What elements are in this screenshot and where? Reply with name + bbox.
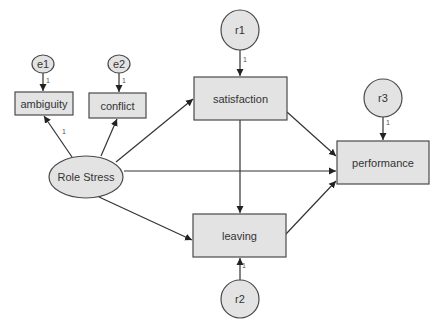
weight-r1-satisfaction: 1 bbox=[243, 56, 247, 63]
edge-satisfaction-performance bbox=[287, 112, 336, 156]
node-r2[interactable]: r2 bbox=[221, 280, 259, 318]
node-label: r1 bbox=[235, 24, 245, 36]
node-label: ambiguity bbox=[20, 98, 68, 110]
node-label: Role Stress bbox=[58, 171, 115, 183]
node-label: performance bbox=[352, 157, 414, 169]
node-label: r2 bbox=[235, 293, 245, 305]
edge-rolestress-leaving bbox=[99, 197, 192, 240]
edge-rolestress-conflict bbox=[101, 119, 117, 156]
weight-r2-leaving: 1 bbox=[242, 262, 246, 269]
node-conflict[interactable]: conflict bbox=[89, 93, 146, 118]
weight-rolestress-ambiguity: 1 bbox=[62, 128, 66, 135]
node-leaving[interactable]: leaving bbox=[193, 214, 286, 257]
node-r1[interactable]: r1 bbox=[221, 10, 259, 50]
node-satisfaction[interactable]: satisfaction bbox=[194, 77, 287, 120]
node-e2[interactable]: e2 bbox=[108, 55, 130, 73]
node-label: leaving bbox=[222, 230, 257, 242]
node-label: e1 bbox=[37, 58, 49, 70]
edge-leaving-performance bbox=[286, 181, 336, 234]
node-e1[interactable]: e1 bbox=[32, 55, 54, 73]
node-r3[interactable]: r3 bbox=[364, 79, 402, 117]
edge-rolestress-ambiguity bbox=[44, 116, 72, 157]
node-label: e2 bbox=[113, 58, 125, 70]
node-ambiguity[interactable]: ambiguity bbox=[15, 92, 73, 115]
weight-r3-performance: 1 bbox=[386, 119, 390, 126]
weight-e2-conflict: 1 bbox=[122, 77, 126, 84]
weight-e1-ambiguity: 1 bbox=[46, 77, 50, 84]
node-role-stress[interactable]: Role Stress bbox=[49, 156, 123, 198]
node-label: conflict bbox=[100, 100, 134, 112]
sem-diagram: 1 1 1 1 1 1 e1 e2 r1 r2 r3 Role Stress a… bbox=[0, 0, 438, 334]
node-label: satisfaction bbox=[213, 93, 268, 105]
node-performance[interactable]: performance bbox=[337, 141, 429, 184]
node-label: r3 bbox=[378, 92, 388, 104]
